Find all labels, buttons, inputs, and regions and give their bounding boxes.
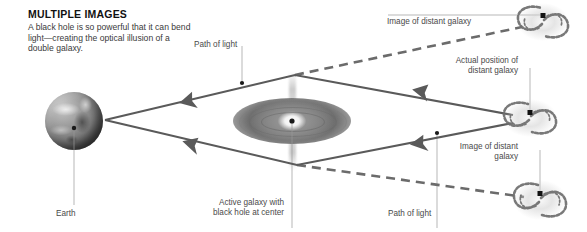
label-path-of-light-top: Path of light — [194, 40, 237, 50]
label-image-top: Image of distant galaxy — [387, 17, 471, 27]
diagram-canvas: MULTIPLE IMAGES A black hole is so power… — [0, 0, 587, 232]
leader-dots — [72, 81, 439, 135]
label-image-bottom: Image of distant galaxy — [448, 142, 518, 163]
diagram-vectors — [0, 0, 587, 232]
light-ray-upper — [105, 75, 513, 120]
label-path-of-light-bottom: Path of light — [388, 209, 431, 219]
label-earth: Earth — [56, 209, 76, 219]
apparent-path-bottom — [297, 165, 524, 197]
spiral-galaxy-actual — [503, 99, 557, 137]
label-actual-position: Actual position of distant galaxy — [440, 56, 518, 77]
label-active-galaxy: Active galaxy with black hole at center — [190, 198, 284, 219]
spiral-galaxy-bottom — [513, 180, 567, 220]
spiral-galaxy-top — [517, 3, 569, 41]
